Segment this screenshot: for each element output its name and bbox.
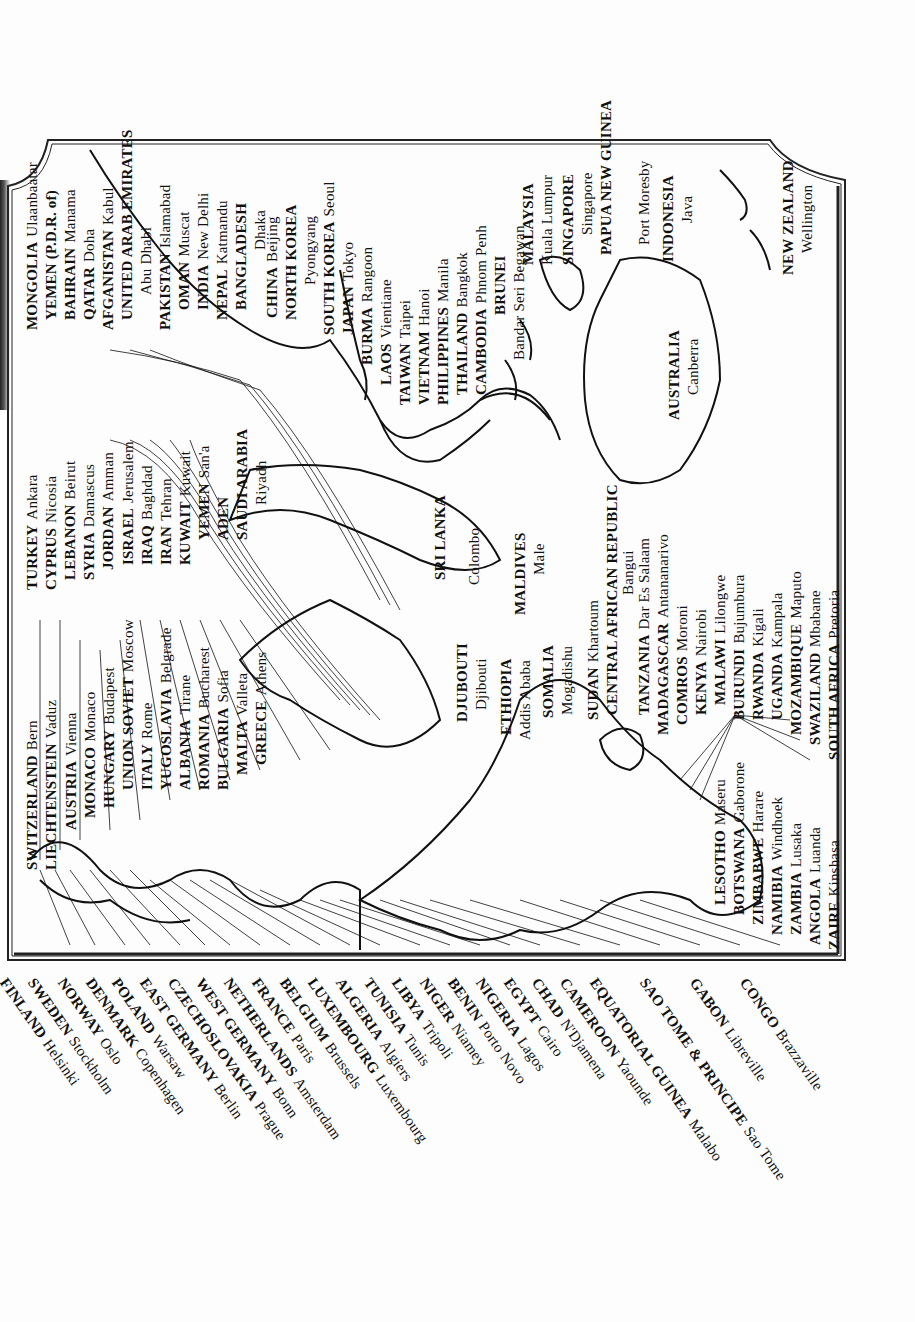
label-djibouti-city: Djibouti (473, 658, 490, 715)
label-iraq: IRAQBaghdad (139, 465, 156, 565)
label-saudi-arabia: SAUDI ARABIA (234, 429, 251, 540)
label-south-africa: SOUTH AFRICAPretoria (826, 590, 843, 760)
label-mogadishu: Mogadishu (559, 646, 576, 720)
label-somalia: SOMALIA (540, 645, 557, 718)
label-maldives: MALDIVES (512, 533, 529, 615)
label-turkey: TURKEYAnkara (24, 474, 41, 590)
label-taiwan: TAIWANTaipei (397, 300, 414, 405)
label-kenya: KENYANairobi (693, 609, 710, 715)
label-sudan: SUDANKhartoum (585, 600, 602, 720)
label-liechtenstein: LIECHTENSTEINVaduz (43, 700, 60, 870)
label-burma: BURMARangoon (359, 247, 376, 365)
label-papua-new-guinea: PAPUA NEW GUINEA (598, 100, 615, 255)
label-namibia: NAMIBIAWindhoek (769, 797, 786, 935)
label-angola: ANGOLALuanda (807, 827, 824, 945)
label-japan: JAPANTokyo (340, 242, 357, 335)
label-brunei: BRUNEI (492, 255, 509, 315)
label-car: CENTRAL AFRICAN REPUBLIC (604, 484, 621, 715)
label-yemen-pdr: YEMEN (P.D.R. of) (43, 190, 60, 320)
label-laos: LAOSVientiane (378, 279, 395, 385)
label-ethiopia: ETHIOPIA (498, 658, 515, 735)
label-riyadh: Riyadh (253, 460, 270, 510)
label-china: CHINABeijing (264, 216, 281, 318)
label-kuwait: KUWAITKuwait (177, 451, 194, 565)
label-bulgaria: BULGARIASofia (215, 670, 232, 790)
label-pakistan: PAKISTANIslamabad (157, 185, 174, 330)
label-bangladesh: BANGLADESH (233, 203, 250, 310)
label-cyprus: CYPRUSNicosia (43, 476, 60, 590)
label-bahrain: BAHRAINManama (62, 189, 79, 320)
label-greece: GREECEAthens (253, 652, 270, 765)
label-qatar: QATARDoha (81, 229, 98, 320)
label-swaziland: SWAZILANDMbabane (807, 590, 824, 745)
label-tanzania: TANZANIADar Es Salaam (636, 538, 653, 715)
label-indonesia: INDONESIA (660, 175, 677, 262)
label-albania: ALBANIATirane (177, 675, 194, 790)
label-sri: SRI LANKA (432, 495, 449, 580)
label-djubouti: DJUBOUTI (454, 643, 471, 722)
label-lesotho: LESOTHOMaseru (712, 779, 729, 905)
label-abu-dhabi: Abu Dhabi (138, 227, 155, 300)
label-lebanon: LEBANONBeirut (62, 461, 79, 580)
label-india: INDIANew Delhi (195, 193, 212, 310)
label-south-korea: SOUTH KOREASeoul (321, 181, 338, 335)
label-mongolia: MONGOLIAUlaanbaatar (24, 162, 41, 330)
label-botswana: BOTSWANAGaborone (731, 762, 748, 915)
label-iran: IRANTehran (158, 478, 175, 565)
label-uae: UNITED ARAB EMIRATES (119, 130, 136, 320)
label-vietnam: VIETNAMHanoi (416, 288, 433, 405)
label-colombo: Colombo (466, 528, 483, 590)
label-monaco: MONACOMonaco (82, 691, 99, 818)
label-mozambique: MOZAMBIQUEMaputo (788, 571, 805, 735)
label-male: Male (531, 543, 548, 580)
label-zaire: ZAIREKinshasa (826, 840, 843, 950)
label-jordan: JORDANAmman (100, 452, 117, 570)
label-zambia: ZAMBIALusaka (788, 823, 805, 935)
label-austria: AUSTRIAVienna (63, 712, 80, 830)
label-yugoslavia: YUGOSLAVIABelgrade (158, 628, 175, 791)
label-hungary: HUNGARYBudapest (101, 667, 118, 808)
label-bangui: Bangui (620, 550, 637, 600)
label-addis-ababa: Addis Ababa (517, 660, 534, 745)
label-israel: ISRAELJerusalem (120, 441, 137, 565)
label-java: Java (679, 196, 696, 228)
label-north-korea: NORTH KOREA (283, 205, 300, 320)
label-philippines: PHILIPPINESManila (435, 258, 452, 405)
label-madagascar: MADAGASCARAntananarivo (655, 534, 672, 735)
map-page: SWITZERLANDBern LIECHTENSTEINVaduz AUSTR… (0, 0, 915, 1322)
label-romania: ROMANIABucharest (196, 647, 213, 790)
label-port-moresby: Port Moresby (636, 161, 653, 250)
label-new-zealand: NEW ZEALAND (780, 160, 797, 275)
label-thailand: THAILANDBangkok (454, 252, 471, 395)
label-afganistan: AFGANISTANKabul (100, 187, 117, 330)
label-comros: COMROSMoroni (674, 605, 691, 725)
label-syria: SYRIADamascus (81, 464, 98, 580)
label-zimbabwe: ZIMBABWEHarare (750, 791, 767, 925)
label-singapore-city: Singapore (579, 172, 596, 240)
label-singapore: SINGAPORE (560, 174, 577, 265)
label-burundi: BURUNDIBujumbura (731, 574, 748, 720)
label-nepal: NEPALKatmandu (214, 200, 231, 320)
label-uganda: UGANDAKampala (769, 592, 786, 720)
label-malta: MALTAValleta (234, 673, 251, 775)
label-cambodia: CAMBODIAPhnom Penh (473, 225, 490, 395)
label-malawi: MALAWILilongwe (712, 575, 729, 705)
label-switzerland: SWITZERLANDBern (24, 720, 41, 870)
label-oman: OMANMuscat (176, 211, 193, 310)
label-union-soviet: UNION SOVIETMoscow (120, 619, 137, 790)
label-malaysia: MALAYSIA (520, 183, 537, 265)
label-wellington: Wellington (799, 185, 816, 258)
label-aden: ADEN (215, 497, 232, 540)
label-yemen: YEMENSan'a (196, 445, 213, 540)
label-kuala-lumpur: Kuala Lumpur (539, 175, 556, 270)
label-rwanda: RWANDAKigali (750, 608, 767, 720)
label-australia: AUSTRALIA (666, 330, 683, 420)
label-canberra: Canberra (685, 338, 702, 400)
label-italy: ITALYRome (139, 702, 156, 790)
label-pyongyang: Pyongyang (302, 216, 319, 290)
